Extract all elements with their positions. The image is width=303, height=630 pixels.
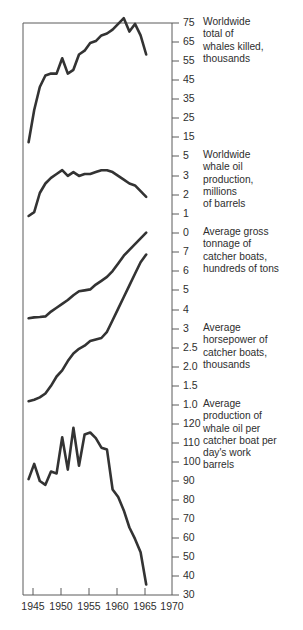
y-tick-label-15: 15 (183, 131, 195, 142)
y-tick-label-40: 40 (183, 570, 195, 581)
y-tick-label-25: 25 (183, 112, 195, 123)
y-tick-label-3a: 3 (183, 170, 189, 181)
x-axis-ticks (33, 588, 145, 595)
y-tick-label-65: 65 (183, 36, 195, 47)
y-tick-label-2p0: 2.0 (183, 361, 198, 372)
plot-frame (23, 23, 172, 595)
y-tick-label-1p0: 1.0 (183, 399, 198, 410)
legend-oil-per-boat-per-day: Average production of whale oil per catc… (203, 398, 303, 472)
y-tick-label-6: 6 (183, 265, 189, 276)
y-tick-label-100: 100 (183, 456, 201, 467)
series-oil-per-boat-per-day (29, 428, 147, 585)
y-tick-label-0: 0 (183, 227, 189, 238)
y-tick-label-75: 75 (183, 17, 195, 28)
y-tick-label-3b: 3 (183, 323, 189, 334)
y-tick-label-70: 70 (183, 513, 195, 524)
y-tick-label-110: 110 (183, 437, 200, 448)
y-tick-label-55: 55 (183, 55, 195, 66)
legend-gross-tonnage: Average gross tonnage of catcher boats, … (203, 226, 303, 275)
y-tick-label-2p5: 2.5 (183, 342, 198, 353)
y-tick-label-90: 90 (183, 475, 195, 486)
y-tick-label-5b: 5 (183, 284, 189, 295)
series-gross-tonnage (29, 233, 147, 319)
y-tick-label-2a: 2 (183, 189, 189, 200)
y-tick-label-4: 4 (183, 304, 189, 315)
legend-whales-killed: Worldwide total of whales killed, thousa… (203, 16, 303, 65)
y-axis-ticks (172, 23, 179, 595)
y-tick-label-1p5: 1.5 (183, 380, 198, 391)
y-tick-label-60: 60 (183, 532, 195, 543)
series-whales-killed (29, 18, 147, 142)
y-tick-label-120: 120 (183, 418, 201, 429)
y-tick-label-1: 1 (183, 208, 189, 219)
y-tick-label-30: 30 (183, 589, 195, 600)
whaling-statistics-figure: 75 65 55 45 35 25 15 5 3 2 1 0 7 6 5 4 3… (0, 0, 303, 630)
legend-whale-oil-production: Worldwide whale oil production, millions… (203, 149, 303, 210)
y-tick-label-45: 45 (183, 74, 195, 85)
y-tick-label-35: 35 (183, 93, 195, 104)
x-tick-label-1970: 1970 (152, 601, 192, 612)
y-tick-label-5: 5 (183, 150, 189, 161)
chart-canvas (0, 0, 303, 630)
series-whale-oil-production (29, 170, 147, 216)
series-horsepower (29, 255, 147, 402)
y-tick-label-7: 7 (183, 246, 189, 257)
legend-horsepower: Average horsepower of catcher boats, tho… (203, 322, 303, 371)
y-tick-label-50: 50 (183, 551, 195, 562)
y-tick-label-80: 80 (183, 494, 195, 505)
